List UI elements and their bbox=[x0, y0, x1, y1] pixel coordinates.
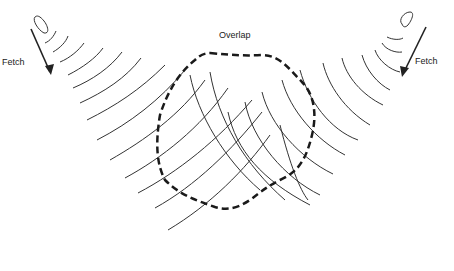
overlap-label: Overlap bbox=[219, 30, 251, 40]
left-fetch-arrow-icon bbox=[31, 29, 54, 75]
right-wave-group bbox=[190, 12, 413, 205]
left-fetch-label: Fetch bbox=[2, 57, 25, 67]
left-wave-group bbox=[34, 16, 270, 230]
right-fetch-label: Fetch bbox=[415, 56, 438, 66]
overlap-boundary bbox=[157, 53, 314, 209]
right-source-icon bbox=[401, 12, 413, 27]
wave-overlap-diagram bbox=[0, 0, 454, 271]
right-fetch-arrow-icon bbox=[400, 27, 426, 77]
left-source-icon bbox=[34, 16, 48, 33]
